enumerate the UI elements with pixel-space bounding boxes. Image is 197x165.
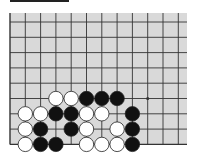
white-stone[interactable] [79,122,93,136]
black-stone[interactable] [33,122,47,136]
star-point [146,97,149,100]
black-stone[interactable] [95,91,109,105]
white-stone[interactable] [49,91,63,105]
black-stone[interactable] [110,91,124,105]
black-stone[interactable] [33,137,47,151]
black-stone[interactable] [125,137,139,151]
black-stone[interactable] [64,122,78,136]
star-points [146,97,149,100]
white-stone[interactable] [18,137,32,151]
white-stone[interactable] [110,122,124,136]
white-stone[interactable] [79,107,93,121]
black-stone[interactable] [125,122,139,136]
black-stone[interactable] [79,91,93,105]
white-stone[interactable] [110,137,124,151]
black-stone[interactable] [49,107,63,121]
white-stone[interactable] [79,137,93,151]
white-stone[interactable] [95,137,109,151]
white-stone[interactable] [18,107,32,121]
white-stone[interactable] [33,107,47,121]
black-stone[interactable] [49,137,63,151]
black-stone[interactable] [125,107,139,121]
white-stone[interactable] [95,107,109,121]
white-stone[interactable] [64,91,78,105]
white-stone[interactable] [18,122,32,136]
black-stone[interactable] [64,107,78,121]
go-board[interactable] [0,0,197,165]
